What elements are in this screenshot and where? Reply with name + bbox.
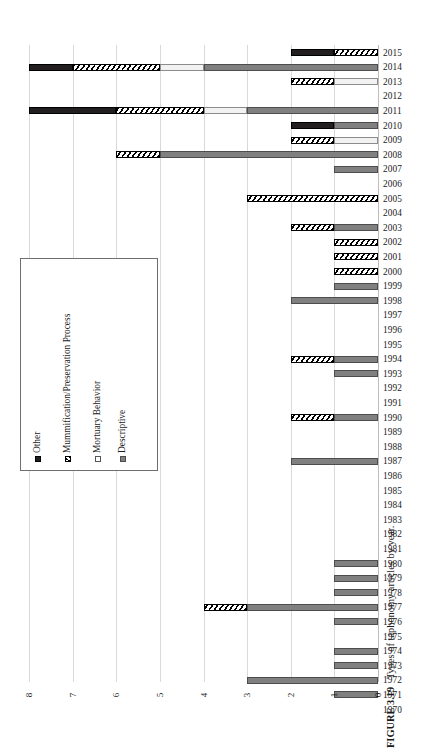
bar-segment-descriptive [247,677,378,684]
chart-legend: OtherMummification/Preservation ProcessM… [20,258,158,471]
year-label-1990: 1990 [383,411,429,426]
legend-label: Descriptive [117,410,127,453]
stacked-bar [334,662,378,669]
bar-segment-mummy [116,151,160,158]
year-label-2001: 2001 [383,250,429,265]
bar-row [0,221,434,236]
bar-row [0,60,434,75]
stacked-bar [334,283,378,290]
figure-caption-text: Types of taphonomy articles by year. [385,526,396,679]
bar-row [0,46,434,61]
legend-label: Mummification/Preservation Process [62,314,72,453]
stacked-bar [204,604,378,611]
stacked-bar [291,297,378,304]
bar-segment-descriptive [204,64,378,71]
bar-segment-mortuary [334,78,378,85]
x-tick-4: 4 [195,687,213,703]
stacked-bar [247,195,378,202]
stacked-bar [247,677,378,684]
bar-segment-descriptive [334,356,378,363]
stacked-bar [334,253,378,260]
bar-segment-descriptive [334,662,378,669]
bar-row [0,206,434,221]
x-tick-1: 1 [325,687,343,703]
bar-segment-descriptive [334,224,378,231]
bar-row [0,527,434,542]
year-label-1997: 1997 [383,308,429,323]
year-label-2005: 2005 [383,192,429,207]
stacked-bar [334,575,378,582]
bar-segment-descriptive [334,122,378,129]
bar-segment-mortuary [204,107,248,114]
bar-row [0,104,434,119]
year-label-2006: 2006 [383,177,429,192]
year-label-1985: 1985 [383,484,429,499]
bar-row [0,703,434,718]
stacked-bar [334,618,378,625]
x-tick-7: 7 [64,687,82,703]
year-label-2013: 2013 [383,75,429,90]
x-tick-8: 8 [20,687,38,703]
year-label-2003: 2003 [383,221,429,236]
bar-segment-mummy [291,414,335,421]
bar-row [0,513,434,528]
bar-segment-descriptive [334,370,378,377]
year-label-1995: 1995 [383,338,429,353]
figure-number: FIGURE 3.19 [385,687,396,748]
bar-segment-descriptive [334,414,378,421]
bar-segment-other [29,64,73,71]
year-label-1994: 1994 [383,352,429,367]
stacked-bar [291,356,378,363]
year-label-1987: 1987 [383,454,429,469]
bar-row [0,600,434,615]
year-label-2002: 2002 [383,235,429,250]
year-label-2012: 2012 [383,89,429,104]
year-label-2015: 2015 [383,46,429,61]
bar-row [0,542,434,557]
bar-segment-descriptive [247,107,378,114]
legend-swatch-other-icon [35,456,41,462]
stacked-bar [291,414,378,421]
stacked-bar [291,49,378,56]
bar-row [0,192,434,207]
bar-segment-descriptive [334,560,378,567]
stacked-bar [29,64,378,71]
year-label-2008: 2008 [383,148,429,163]
bar-row [0,469,434,484]
bar-segment-mummy [291,137,335,144]
legend-item-mummy[interactable]: Mummification/Preservation Process [62,314,73,462]
bar-row [0,615,434,630]
stacked-bar [334,560,378,567]
bar-row [0,89,434,104]
year-label-2010: 2010 [383,119,429,134]
bar-segment-mummy [334,253,378,260]
year-label-1984: 1984 [383,498,429,513]
bar-row [0,586,434,601]
taphonomy-articles-chart: 2015201420132012201120102009200820072006… [0,0,434,754]
x-tick-3: 3 [238,687,256,703]
legend-label: Mortuary Behavior [92,381,102,453]
bar-segment-descriptive [334,166,378,173]
bar-segment-mortuary [334,137,378,144]
bar-segment-descriptive [334,618,378,625]
bar-row [0,162,434,177]
year-label-2011: 2011 [383,104,429,119]
legend-item-other[interactable]: Other [32,432,43,462]
year-label-2000: 2000 [383,265,429,280]
bar-segment-descriptive [247,604,378,611]
bar-row [0,557,434,572]
legend-swatch-mortuary-icon [95,456,101,462]
bar-segment-other [291,122,335,129]
bar-row [0,177,434,192]
bar-row [0,498,434,513]
bar-segment-other [291,49,335,56]
year-label-2007: 2007 [383,162,429,177]
bar-row [0,235,434,250]
legend-item-descriptive[interactable]: Descriptive [117,410,128,462]
bar-row [0,484,434,499]
stacked-bar [29,107,378,114]
bar-segment-descriptive [160,151,378,158]
year-label-1992: 1992 [383,381,429,396]
legend-item-mortuary[interactable]: Mortuary Behavior [92,381,103,462]
legend-swatch-mummy-icon [65,456,71,462]
